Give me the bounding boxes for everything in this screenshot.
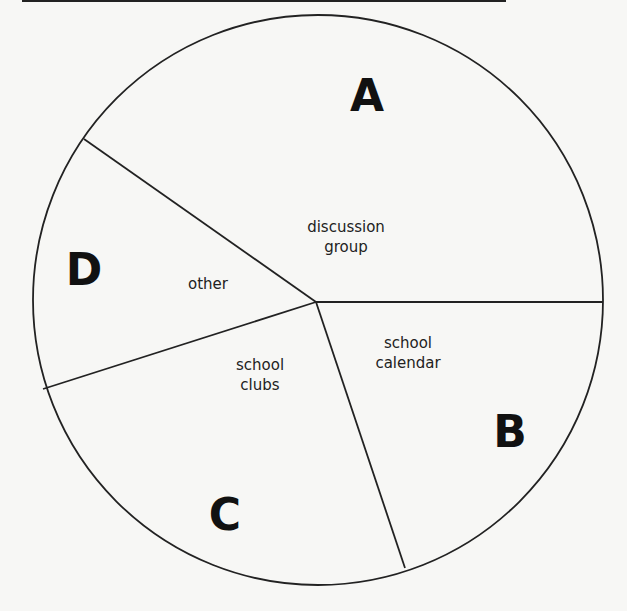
pie-chart <box>0 0 627 611</box>
slice-c-letter: C <box>209 493 241 537</box>
pie-outline <box>33 15 603 585</box>
slice-a-label: discussion group <box>307 217 385 257</box>
slice-d-label: other <box>188 274 228 294</box>
slice-d-letter: D <box>66 248 103 292</box>
slice-c-label: school clubs <box>236 355 284 395</box>
slice-b-label: school calendar <box>375 333 440 373</box>
slice-b-letter: B <box>493 410 527 454</box>
slice-a-letter: A <box>350 74 384 118</box>
